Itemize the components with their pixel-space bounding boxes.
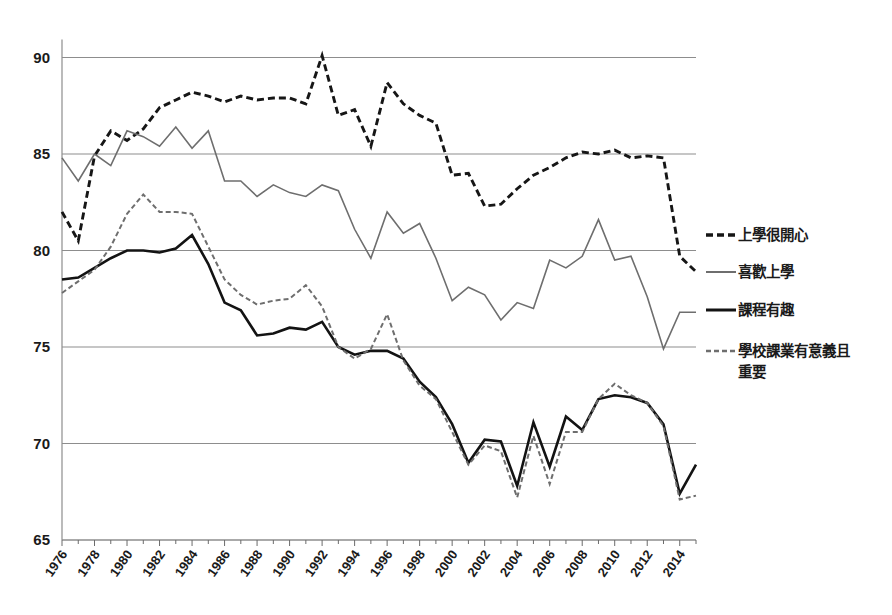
x-tick-label-1990: 1990 — [269, 547, 298, 579]
x-tick-label-1986: 1986 — [204, 547, 233, 579]
x-tick-label-1996: 1996 — [367, 547, 396, 579]
y-axis-tick-labels: 657075808590 — [33, 49, 50, 549]
x-tick-label-1980: 1980 — [107, 547, 136, 579]
x-tick-label-1978: 1978 — [74, 547, 103, 579]
legend-label-0: 上學很開心 — [738, 226, 809, 243]
x-tick-label-2012: 2012 — [627, 547, 656, 579]
x-tick-label-1992: 1992 — [302, 547, 331, 579]
x-axis-ticks — [62, 540, 696, 546]
x-tick-label-2010: 2010 — [594, 547, 623, 579]
y-tick-label-90: 90 — [33, 49, 50, 66]
y-tick-label-70: 70 — [33, 435, 50, 452]
legend-label-3: 學校課業有意義且 — [738, 342, 851, 359]
line-chart: 657075808590 197619781980198219841986198… — [0, 0, 892, 615]
y-tick-label-80: 80 — [33, 242, 50, 259]
legend-label-1: 喜歡上學 — [738, 263, 795, 280]
series-line-1 — [62, 127, 696, 349]
data-series-group — [62, 56, 696, 500]
chart-canvas: 657075808590 197619781980198219841986198… — [0, 0, 892, 615]
series-line-0 — [62, 56, 696, 272]
x-tick-label-2002: 2002 — [464, 547, 493, 579]
y-tick-label-75: 75 — [33, 338, 50, 355]
x-axis-tick-labels: 1976197819801982198419861988199019921994… — [42, 546, 689, 579]
x-tick-label-1994: 1994 — [334, 546, 363, 579]
gridlines — [62, 58, 696, 541]
x-tick-label-2014: 2014 — [659, 546, 688, 579]
axes — [62, 40, 696, 541]
x-tick-label-2004: 2004 — [497, 546, 526, 579]
x-tick-label-1984: 1984 — [172, 546, 201, 579]
x-tick-label-2000: 2000 — [432, 547, 461, 579]
legend-label-3-line2: 重要 — [738, 363, 767, 380]
x-tick-label-1988: 1988 — [237, 547, 266, 579]
x-tick-label-1998: 1998 — [399, 547, 428, 579]
x-tick-label-2008: 2008 — [562, 547, 591, 579]
chart-legend: 上學很開心喜歡上學課程有趣學校課業有意義且重要 — [706, 226, 851, 380]
x-tick-label-1982: 1982 — [139, 547, 168, 579]
legend-label-2: 課程有趣 — [738, 301, 795, 318]
x-tick-label-1976: 1976 — [42, 547, 71, 579]
y-tick-label-85: 85 — [33, 145, 50, 162]
y-tick-label-65: 65 — [33, 531, 50, 548]
x-tick-label-2006: 2006 — [529, 547, 558, 579]
series-line-2 — [62, 235, 696, 494]
